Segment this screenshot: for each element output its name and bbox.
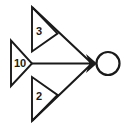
upper-triangle-label: 3: [36, 25, 42, 37]
figure-canvas: 10 3 2: [0, 0, 124, 128]
lower-triangle-label: 2: [36, 90, 42, 102]
terminal-circle-node: [97, 52, 120, 75]
triangle-diagram: 10 3 2: [0, 0, 124, 128]
left-triangle-label: 10: [14, 57, 26, 69]
